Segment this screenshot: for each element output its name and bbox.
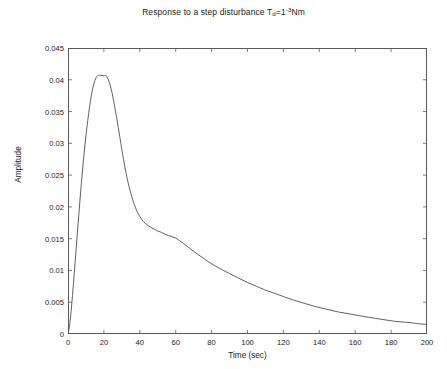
x-tick-label: 200 <box>421 338 434 347</box>
x-axis-tick-labels: 020406080100120140160180200 <box>68 338 427 352</box>
figure-canvas: Response to a step disturbance Td=1-3Nm … <box>0 0 447 369</box>
y-tick-label: 0.02 <box>49 202 64 211</box>
x-tick-label: 120 <box>277 338 290 347</box>
y-axis-label: Amplitude <box>14 125 23 205</box>
y-tick-label: 0.035 <box>45 107 64 116</box>
y-tick-label: 0 <box>60 330 64 339</box>
x-tick-label: 60 <box>171 338 179 347</box>
x-tick-label: 160 <box>349 338 362 347</box>
x-tick-label: 140 <box>313 338 326 347</box>
x-tick-label: 180 <box>385 338 398 347</box>
y-tick-label: 0.015 <box>45 234 64 243</box>
x-tick-label: 0 <box>66 338 70 347</box>
y-tick-label: 0.03 <box>49 139 64 148</box>
response-curve-svg <box>68 48 427 334</box>
x-axis-label: Time (sec) <box>68 351 427 360</box>
y-tick-label: 0.045 <box>45 44 64 53</box>
chart-title: Response to a step disturbance Td=1-3Nm <box>0 6 447 17</box>
x-tick-label: 20 <box>100 338 108 347</box>
x-tick-label: 80 <box>207 338 215 347</box>
x-tick-label: 40 <box>136 338 144 347</box>
axis-tick-marks <box>68 48 427 334</box>
chart-title-middle: =1 <box>276 7 286 17</box>
chart-title-suffix: Nm <box>291 7 304 17</box>
response-curve-line <box>68 75 427 334</box>
y-axis-tick-labels: 00.0050.010.0150.020.0250.030.0350.040.0… <box>24 48 64 334</box>
y-tick-label: 0.01 <box>49 266 64 275</box>
y-tick-label: 0.025 <box>45 171 64 180</box>
y-tick-label: 0.005 <box>45 298 64 307</box>
x-tick-label: 100 <box>241 338 254 347</box>
plot-area <box>68 48 427 334</box>
y-tick-label: 0.04 <box>49 75 64 84</box>
chart-title-prefix: Response to a step disturbance T <box>142 7 272 17</box>
